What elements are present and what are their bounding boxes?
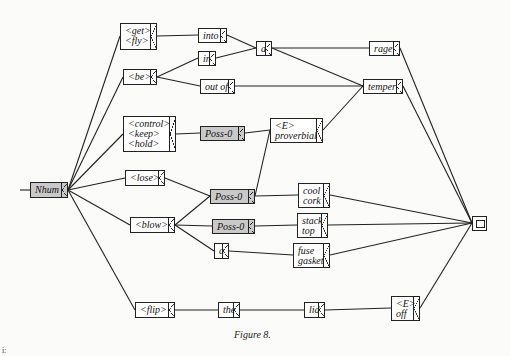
- node-label: a: [261, 44, 263, 54]
- node-label: into: [203, 31, 218, 41]
- node-label: <fly>: [125, 36, 148, 46]
- node-e-off: <E>off: [391, 296, 420, 321]
- node-stack-top: stacktop: [297, 213, 328, 238]
- node-flip: <flip>: [135, 302, 175, 318]
- figure-caption: Figure 8.: [234, 329, 271, 340]
- edges-layer: [0, 0, 510, 356]
- final-state-inner: [476, 220, 485, 228]
- node-label: top: [302, 226, 319, 236]
- node-e-proverbial: <E>proverbial: [270, 118, 323, 143]
- node-label: the: [223, 305, 231, 315]
- node-label: proverbial: [275, 131, 314, 141]
- node-fuse-gasket: fusegasket: [293, 243, 330, 268]
- node-label: <hold>: [128, 139, 167, 149]
- node-into: into: [198, 28, 227, 43]
- node-label: Nhum: [35, 185, 59, 195]
- node-temper: temper: [363, 79, 403, 94]
- node-the: the: [218, 302, 240, 318]
- node-label: out of: [205, 82, 226, 92]
- node-label: Poss-0: [205, 129, 236, 139]
- node-label: cork: [303, 196, 321, 206]
- node-label: rage: [374, 44, 391, 54]
- node-poss0-low: Poss-0: [212, 219, 255, 234]
- final-state-icon: [472, 216, 487, 231]
- node-out-of: out of: [200, 79, 235, 94]
- node-lid: lid: [304, 302, 325, 318]
- node-poss0-mid: Poss-0: [210, 189, 255, 204]
- node-control-keep-hold: <control><keep><hold>: [123, 116, 176, 152]
- node-a-low: a: [214, 243, 229, 259]
- node-label: in: [203, 54, 207, 64]
- node-in: in: [198, 51, 216, 66]
- node-blow: <blow>: [130, 217, 175, 233]
- node-label: temper: [368, 82, 394, 92]
- node-nhum: Nhum: [30, 182, 68, 198]
- node-label: lid: [309, 305, 316, 315]
- node-get-fly: <get><fly>: [120, 23, 157, 50]
- node-a-top: a: [256, 41, 272, 56]
- node-rage: rage: [369, 41, 400, 56]
- node-poss0-top: Poss-0: [200, 126, 245, 141]
- node-label: Poss-0: [215, 192, 246, 202]
- node-label: gasket: [298, 256, 321, 266]
- node-label: <flip>: [140, 305, 166, 315]
- node-cool-cork: coolcork: [298, 183, 330, 208]
- node-label: off: [396, 309, 411, 319]
- node-lose: <lose>: [125, 170, 165, 186]
- corner-mark: i:: [2, 346, 6, 355]
- node-label: <lose>: [130, 173, 156, 183]
- node-label: <blow>: [135, 220, 166, 230]
- node-be: <be>: [123, 69, 157, 85]
- node-label: Poss-0: [217, 222, 246, 232]
- node-label: a: [219, 246, 220, 256]
- node-label: <be>: [128, 72, 148, 82]
